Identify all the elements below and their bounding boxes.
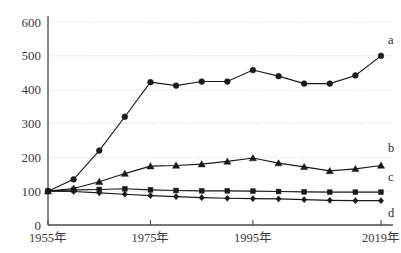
data-point-marker bbox=[148, 79, 154, 85]
line-chart: 01002003004005006001955年1975年1995年2019年a… bbox=[0, 0, 401, 253]
data-point-marker bbox=[327, 190, 332, 195]
y-axis-tick-label: 500 bbox=[22, 48, 42, 63]
series-c bbox=[46, 186, 384, 194]
data-point-marker bbox=[377, 162, 384, 168]
gridlines bbox=[48, 22, 393, 191]
y-axis-tick-label: 100 bbox=[22, 184, 42, 199]
data-point-marker bbox=[173, 83, 179, 89]
data-point-marker bbox=[250, 67, 256, 73]
data-point-marker bbox=[122, 191, 127, 197]
data-point-marker bbox=[199, 79, 205, 85]
data-point-marker bbox=[379, 190, 384, 195]
data-point-marker bbox=[353, 198, 358, 204]
series-label-b: b bbox=[388, 141, 394, 155]
x-axis-tick-label: 1995年 bbox=[234, 231, 272, 245]
data-point-marker bbox=[225, 188, 230, 193]
data-point-marker bbox=[327, 81, 333, 87]
data-point-marker bbox=[327, 197, 332, 203]
data-point-marker bbox=[148, 187, 153, 192]
x-axis-tick-label: 1975年 bbox=[131, 231, 169, 245]
data-point-marker bbox=[378, 53, 384, 59]
y-axis-tick-label: 600 bbox=[22, 15, 42, 30]
x-axis-tick-label: 2019年 bbox=[362, 231, 400, 245]
series-label-a: a bbox=[388, 33, 394, 47]
data-point-marker bbox=[96, 148, 102, 154]
data-point-marker bbox=[71, 176, 77, 182]
x-axis-tick-label: 1955年 bbox=[29, 231, 67, 245]
data-point-marker bbox=[224, 79, 230, 85]
data-point-marker bbox=[249, 155, 256, 161]
chart-canvas: 01002003004005006001955年1975年1995年2019年a… bbox=[0, 0, 401, 253]
x-axis: 1955年1975年1995年2019年 bbox=[29, 220, 400, 245]
series-label-d: d bbox=[388, 206, 395, 220]
data-point-marker bbox=[225, 195, 230, 201]
data-point-marker bbox=[250, 196, 255, 202]
y-axis: 0100200300400500600 bbox=[22, 15, 49, 233]
data-point-marker bbox=[353, 190, 358, 195]
data-point-marker bbox=[251, 189, 256, 194]
data-point-marker bbox=[276, 189, 281, 194]
data-point-marker bbox=[378, 198, 383, 204]
data-point-marker bbox=[276, 196, 281, 202]
data-point-marker bbox=[302, 197, 307, 203]
data-point-marker bbox=[352, 73, 358, 79]
series-label-c: c bbox=[388, 170, 394, 184]
data-point-marker bbox=[302, 189, 307, 194]
y-axis-tick-label: 300 bbox=[22, 116, 42, 131]
data-point-marker bbox=[173, 193, 178, 199]
data-point-marker bbox=[122, 114, 128, 120]
series-b bbox=[44, 155, 384, 194]
series-line bbox=[48, 158, 381, 191]
data-point-marker bbox=[174, 188, 179, 193]
data-point-marker bbox=[148, 192, 153, 198]
data-point-marker bbox=[199, 188, 204, 193]
data-point-marker bbox=[276, 73, 282, 79]
y-axis-tick-label: 400 bbox=[22, 82, 42, 97]
data-point-marker bbox=[122, 186, 127, 191]
y-axis-tick-label: 200 bbox=[22, 150, 42, 165]
data-point-marker bbox=[301, 81, 307, 87]
data-point-marker bbox=[199, 194, 204, 200]
